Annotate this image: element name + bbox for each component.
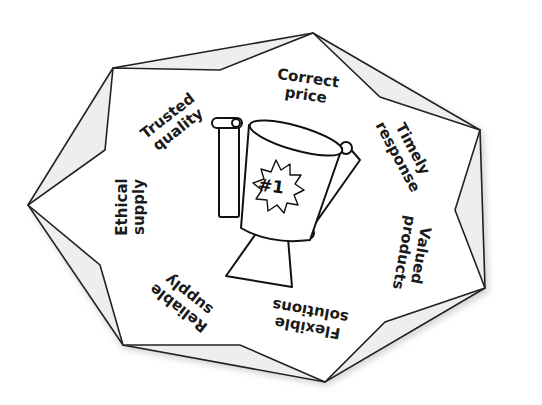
trophy-badge-text: #1 xyxy=(257,174,286,197)
star-frame xyxy=(0,0,542,405)
diagram-canvas: #1 Correct price Timely response Valued … xyxy=(0,0,542,405)
label-ethical-supply: Ethical supply xyxy=(114,162,148,252)
